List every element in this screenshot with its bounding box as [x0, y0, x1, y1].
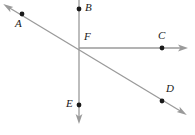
point-dot-d — [160, 99, 165, 104]
point-dot-b — [77, 7, 82, 12]
point-label-b: B — [85, 2, 92, 13]
point-dot-c — [160, 46, 165, 51]
point-label-f: F — [84, 31, 91, 42]
point-label-a: A — [15, 18, 22, 29]
arrowhead-downright-icon — [177, 107, 187, 115]
point-label-d: D — [166, 83, 174, 94]
point-dot-a — [20, 12, 25, 17]
point-dot-e — [77, 103, 82, 108]
point-label-c: C — [158, 30, 165, 41]
line-a-d — [8, 7, 182, 112]
arrowhead-upleft-icon — [3, 4, 13, 12]
figure-svg — [0, 0, 195, 135]
point-label-e: E — [66, 98, 73, 109]
geometry-figure: A B C D E F — [0, 0, 195, 135]
